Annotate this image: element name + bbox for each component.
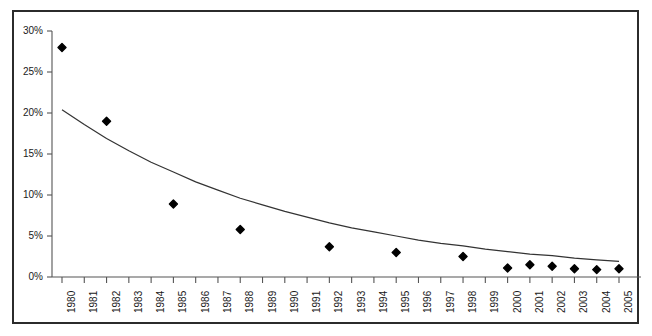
x-axis-tick-label: 2003 xyxy=(579,291,589,313)
x-axis-tick-label: 2001 xyxy=(535,291,545,313)
data-point-marker xyxy=(548,262,556,270)
data-point-marker xyxy=(459,253,467,261)
data-point-marker xyxy=(392,248,400,256)
data-point-marker xyxy=(570,265,578,273)
x-axis-tick-label: 2004 xyxy=(602,291,612,313)
data-point-marker xyxy=(236,225,244,233)
x-axis-tick-label: 2000 xyxy=(513,291,523,313)
x-axis-tick-label: 1983 xyxy=(134,291,144,313)
chart-figure: 30%25%20%15%10%5%0% 19801981198219831984… xyxy=(0,0,652,336)
x-axis-tick-label: 1990 xyxy=(290,291,300,313)
y-axis-tick-label: 20% xyxy=(9,108,43,118)
y-axis-tick-label: 30% xyxy=(9,26,43,36)
x-axis-tick-label: 2005 xyxy=(624,291,634,313)
data-point-marker xyxy=(325,243,333,251)
x-axis-tick-label: 1981 xyxy=(89,291,99,313)
data-point-marker xyxy=(58,43,66,51)
x-axis-tick-label: 1991 xyxy=(312,291,322,313)
y-axis-tick-label: 25% xyxy=(9,67,43,77)
x-axis-tick-label: 1987 xyxy=(223,291,233,313)
y-axis-tick-label: 0% xyxy=(9,272,43,282)
chart-plot-area xyxy=(0,0,652,336)
x-axis-tick-label: 1992 xyxy=(334,291,344,313)
y-axis-tick-label: 10% xyxy=(9,190,43,200)
x-axis-tick-label: 1984 xyxy=(156,291,166,313)
x-axis-tick-label: 1993 xyxy=(357,291,367,313)
x-axis-tick-label: 1995 xyxy=(401,291,411,313)
trend-line xyxy=(62,110,619,262)
x-axis-tick-label: 1996 xyxy=(423,291,433,313)
data-point-marker xyxy=(504,264,512,272)
x-axis-tick-label: 1985 xyxy=(178,291,188,313)
x-axis-tick-label: 1988 xyxy=(245,291,255,313)
x-axis-tick-label: 1982 xyxy=(112,291,122,313)
y-axis-tick-label: 5% xyxy=(9,231,43,241)
x-axis-tick-label: 1998 xyxy=(468,291,478,313)
y-axis-tick-label: 15% xyxy=(9,149,43,159)
x-axis-tick-label: 1994 xyxy=(379,291,389,313)
x-axis-tick-label: 2002 xyxy=(557,291,567,313)
x-axis-tick-label: 1999 xyxy=(490,291,500,313)
x-axis-tick-label: 1980 xyxy=(67,291,77,313)
data-point-marker xyxy=(169,200,177,208)
x-axis-tick-label: 1986 xyxy=(201,291,211,313)
data-point-marker xyxy=(615,265,623,273)
x-axis-tick-label: 1989 xyxy=(268,291,278,313)
axes-group xyxy=(47,31,641,283)
data-point-marker xyxy=(103,117,111,125)
x-axis-tick-label: 1997 xyxy=(446,291,456,313)
trend-line-group xyxy=(62,110,619,262)
data-point-marker xyxy=(526,261,534,269)
data-point-marker xyxy=(593,266,601,274)
